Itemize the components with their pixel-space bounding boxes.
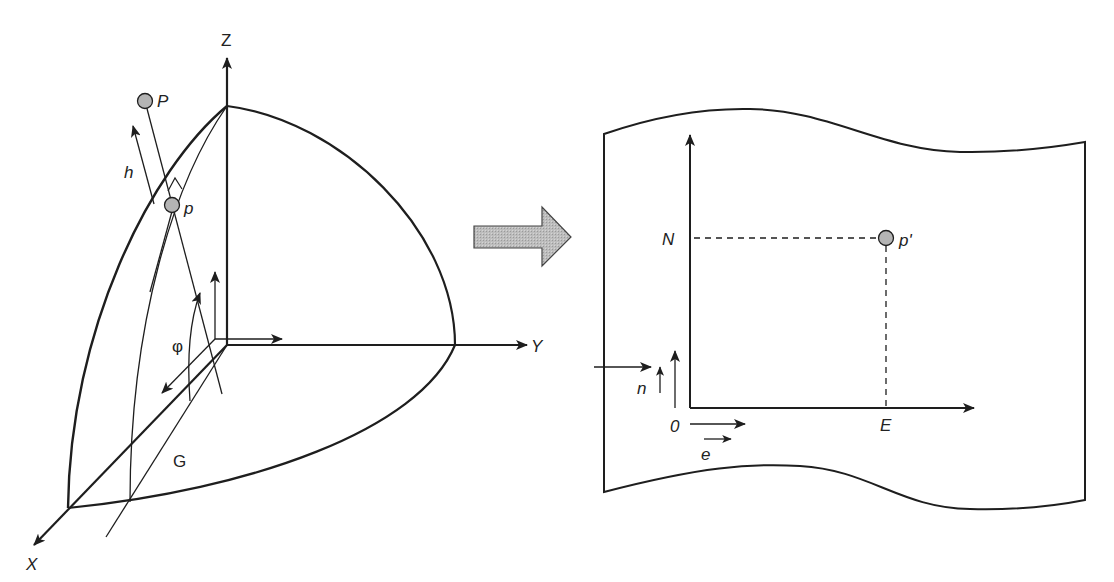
ellipsoid-normal-line xyxy=(150,204,174,292)
point-P-label: P xyxy=(157,92,169,111)
ellipsoid-top-arc xyxy=(227,106,455,345)
x-axis-label: X xyxy=(25,555,38,574)
map-axes xyxy=(594,135,974,439)
y-axis-label: Y xyxy=(531,337,544,356)
latitude-label: φ xyxy=(172,337,183,356)
ellipsoid-figure xyxy=(34,58,527,545)
point-p-prime-label: p' xyxy=(898,231,912,250)
x-axis xyxy=(34,345,227,545)
point-p-prime xyxy=(879,231,894,246)
origin-label: 0 xyxy=(670,417,680,436)
projection-arrow xyxy=(474,207,571,266)
right-angle-marker xyxy=(168,178,182,191)
greenwich-line xyxy=(106,345,227,537)
height-label: h xyxy=(124,163,133,182)
map-sheet xyxy=(604,109,1085,509)
east-label: E xyxy=(880,416,892,435)
normal-line xyxy=(145,101,222,394)
z-axis-label: Z xyxy=(221,31,231,50)
latitude-arc xyxy=(189,293,200,401)
east-unit-label: e xyxy=(701,445,710,464)
north-label: N xyxy=(662,230,675,249)
point-p-label: p xyxy=(183,199,193,218)
height-vector xyxy=(133,126,154,204)
projection-diagram: Z Y X P p h φ G N E 0 p' n e xyxy=(0,0,1114,582)
greenwich-label: G xyxy=(173,452,186,471)
point-P xyxy=(138,94,153,109)
ellipsoid-front-arc xyxy=(68,106,227,508)
map-sheet-outline xyxy=(604,109,1085,509)
meridian-line xyxy=(130,106,227,502)
north-unit-label: n xyxy=(637,379,646,398)
ellipsoid-bottom-arc xyxy=(68,345,455,508)
point-p xyxy=(165,198,180,213)
